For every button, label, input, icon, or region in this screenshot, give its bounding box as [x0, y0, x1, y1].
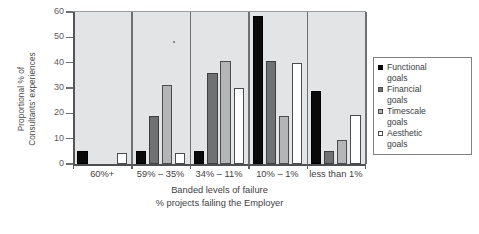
x-tick [365, 164, 366, 169]
y-tick [66, 37, 73, 38]
y-tick [66, 62, 73, 63]
legend-item-label: Timescale goals [387, 106, 426, 127]
y-tick-label: 0 [40, 158, 64, 168]
bar [220, 61, 230, 164]
legend-item[interactable]: Aesthetic goals [378, 128, 467, 149]
bar [253, 16, 263, 164]
bar [117, 153, 127, 164]
legend-swatch-icon [378, 87, 383, 92]
legend-item-label: Financial goals [387, 84, 421, 105]
legend-item[interactable]: Financial goals [378, 84, 467, 105]
bar-chart-figure: Proportional % of Consultants' experienc… [0, 0, 479, 234]
bar [292, 63, 302, 164]
bar [350, 115, 360, 164]
artifact-speck [173, 41, 175, 43]
x-category-label: 10% – 1% [248, 169, 306, 179]
bar [175, 153, 185, 164]
x-axis-line [73, 164, 366, 166]
legend-item[interactable]: Timescale goals [378, 106, 467, 127]
y-tick [66, 87, 73, 88]
x-category-label: 60%+ [73, 169, 131, 179]
y-tick-label: 50 [40, 31, 64, 41]
legend-swatch-icon [378, 131, 383, 136]
bar [234, 88, 244, 164]
y-tick-label: 60 [40, 6, 64, 16]
bar [162, 85, 172, 164]
bar [324, 151, 334, 164]
x-axis-title-line2: % projects failing the Employer [73, 198, 366, 208]
legend-item-label: Aesthetic goals [387, 128, 422, 149]
group-separator [131, 12, 133, 164]
bar [337, 140, 347, 164]
bar [77, 151, 87, 164]
y-tick [66, 113, 73, 114]
bar [279, 116, 289, 164]
y-tick-label: 40 [40, 57, 64, 67]
y-tick [66, 138, 73, 139]
x-category-label: less than 1% [307, 169, 365, 179]
y-tick [66, 11, 73, 12]
y-tick-label: 30 [40, 82, 64, 92]
bar [207, 73, 217, 164]
y-tick-label: 10 [40, 133, 64, 143]
bar [149, 116, 159, 164]
legend-swatch-icon [378, 109, 383, 114]
bar [194, 151, 204, 164]
y-axis-title: Proportional % of Consultants' experienc… [16, 29, 38, 169]
y-tick-label: 20 [40, 107, 64, 117]
x-category-label: 34% – 11% [190, 169, 248, 179]
bar [311, 91, 321, 164]
x-category-label: 59% – 35% [131, 169, 189, 179]
x-axis-title-line1: Banded levels of failure [73, 185, 366, 195]
legend-item[interactable]: Functional goals [378, 62, 467, 83]
bar [136, 151, 146, 164]
legend-swatch-icon [378, 65, 383, 70]
bar [266, 61, 276, 164]
group-separator [307, 12, 309, 164]
plot-right-edge [365, 12, 367, 164]
group-separator [190, 12, 192, 164]
legend: Functional goalsFinancial goalsTimescale… [373, 57, 472, 155]
y-tick [66, 163, 73, 164]
group-separator [248, 12, 250, 164]
legend-item-label: Functional goals [387, 62, 427, 83]
